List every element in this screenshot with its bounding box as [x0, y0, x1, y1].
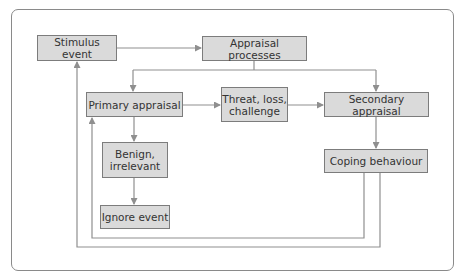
- node-threat-loss-challenge: Threat, loss, challenge: [221, 87, 288, 122]
- node-appraisal-processes: Appraisal processes: [202, 36, 307, 61]
- node-ignore-event: Ignore event: [100, 205, 170, 229]
- node-coping-behaviour: Coping behaviour: [324, 149, 428, 173]
- node-benign-irrelevant: Benign, irrelevant: [102, 142, 168, 178]
- node-primary-appraisal: Primary appraisal: [86, 92, 183, 117]
- node-stimulus-event: Stimulus event: [37, 35, 117, 61]
- node-secondary-appraisal: Secondary appraisal: [324, 92, 429, 117]
